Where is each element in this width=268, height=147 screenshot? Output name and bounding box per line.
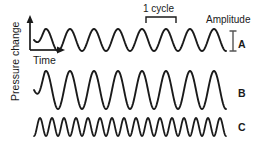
series-label-a: A: [238, 39, 246, 50]
amplitude-bar-icon: [230, 31, 237, 51]
amplitude-annotation-label: Amplitude: [206, 15, 250, 25]
series-label-c: C: [238, 122, 246, 133]
y-axis-label: Pressure change: [10, 15, 21, 107]
cycle-annotation-label: 1 cycle: [143, 4, 174, 14]
series-label-b: B: [238, 88, 246, 99]
axis-group: [27, 15, 65, 53]
cycle-bracket: [146, 17, 176, 23]
wave-figure: Pressure change Time 1 cycle Amplitude A…: [0, 0, 268, 147]
waveform-c: [34, 118, 226, 136]
x-axis-label: Time: [33, 55, 56, 66]
cycle-bracket-icon: [146, 17, 176, 23]
waveform-a: [34, 29, 226, 51]
y-axis-arrow-icon: [27, 15, 34, 23]
amplitude-indicator: [230, 31, 237, 51]
waveform-b: [34, 71, 226, 109]
